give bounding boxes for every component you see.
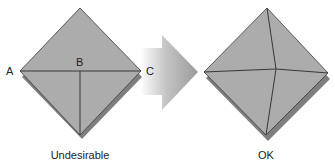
point-label-b: B (76, 57, 83, 68)
point-label-a: A (6, 66, 13, 77)
left-diamond (20, 8, 142, 139)
caption-ok: OK (246, 150, 286, 161)
caption-undesirable: Undesirable (40, 150, 120, 161)
right-diamond (204, 8, 330, 141)
diagram-canvas (0, 0, 335, 167)
left-diamond-face (20, 8, 141, 135)
point-label-c: C (146, 66, 154, 77)
